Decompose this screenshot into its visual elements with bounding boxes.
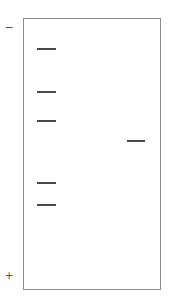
lane-1-band (37, 120, 56, 122)
positive-electrode-label: + (2, 270, 16, 281)
lane-2-band (127, 140, 145, 142)
gel-box (23, 18, 161, 290)
lane-1-band (37, 91, 56, 93)
lane-1-band (37, 48, 56, 50)
lane-1-band (37, 182, 56, 184)
lane-1-band (37, 204, 56, 206)
negative-electrode-label: − (2, 22, 16, 33)
